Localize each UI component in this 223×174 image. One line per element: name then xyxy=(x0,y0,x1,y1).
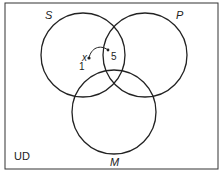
venn-diagram xyxy=(0,0,223,174)
set-m-label: M xyxy=(110,157,119,168)
region-1-label: 1 xyxy=(79,62,85,72)
universe-label: UD xyxy=(14,151,30,162)
set-p-label: P xyxy=(176,10,183,21)
set-s-label: S xyxy=(45,10,52,21)
region-5-label: 5 xyxy=(111,52,117,62)
arrow-head-icon xyxy=(107,49,110,52)
